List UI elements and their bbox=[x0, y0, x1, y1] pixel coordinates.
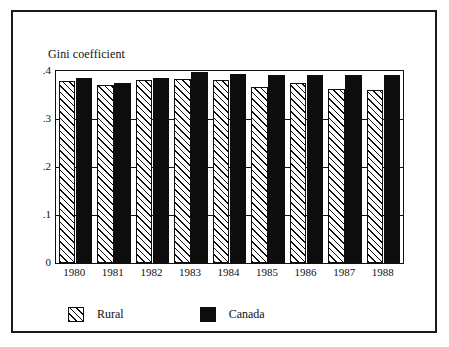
x-tick-label: 1986 bbox=[295, 266, 317, 278]
y-tick-label: 0 bbox=[25, 256, 51, 268]
bar-rural-1986 bbox=[290, 83, 307, 263]
bar-rural-1984 bbox=[213, 80, 230, 263]
bar-series-container bbox=[56, 71, 403, 263]
bar-group bbox=[97, 71, 131, 263]
y-tick-label: .3 bbox=[25, 112, 51, 124]
bar-canada-1982 bbox=[153, 78, 170, 263]
bar-canada-1980 bbox=[76, 78, 93, 263]
legend-entry-canada: Canada bbox=[200, 307, 265, 322]
x-tick-label: 1981 bbox=[102, 266, 124, 278]
bar-group bbox=[290, 71, 324, 263]
x-tick-label: 1983 bbox=[179, 266, 201, 278]
bar-canada-1988 bbox=[384, 75, 401, 263]
bar-group bbox=[251, 71, 285, 263]
plot-area bbox=[55, 70, 404, 264]
y-tick-label: .2 bbox=[25, 160, 51, 172]
legend-entry-rural: Rural bbox=[68, 307, 124, 322]
bar-canada-1984 bbox=[230, 74, 247, 263]
legend-swatch-rural-icon bbox=[68, 307, 84, 322]
y-tick-label: .4 bbox=[25, 64, 51, 76]
chart-legend: RuralCanada bbox=[68, 307, 265, 322]
bar-rural-1980 bbox=[59, 81, 76, 263]
bar-rural-1981 bbox=[97, 85, 114, 263]
bar-canada-1986 bbox=[307, 75, 324, 263]
bar-group bbox=[174, 71, 208, 263]
x-tick-label: 1985 bbox=[256, 266, 278, 278]
legend-label: Canada bbox=[229, 307, 265, 322]
x-tick-label: 1984 bbox=[218, 266, 240, 278]
bar-canada-1985 bbox=[268, 75, 285, 263]
bar-rural-1982 bbox=[136, 80, 153, 263]
figure-panel: Gini coefficient 0.1.2.3.4 1980198119821… bbox=[11, 10, 437, 333]
bar-rural-1985 bbox=[251, 87, 268, 263]
bar-group bbox=[136, 71, 170, 263]
bar-canada-1987 bbox=[345, 75, 362, 263]
y-axis-tick-labels: 0.1.2.3.4 bbox=[21, 70, 51, 262]
bar-canada-1981 bbox=[114, 83, 131, 263]
legend-label: Rural bbox=[97, 307, 124, 322]
y-tick-label: .1 bbox=[25, 208, 51, 220]
bar-group bbox=[213, 71, 247, 263]
x-tick-label: 1987 bbox=[333, 266, 355, 278]
bar-group bbox=[59, 71, 93, 263]
bar-canada-1983 bbox=[191, 72, 208, 263]
y-axis-title: Gini coefficient bbox=[48, 47, 125, 62]
bar-group bbox=[328, 71, 362, 263]
x-tick-label: 1980 bbox=[63, 266, 85, 278]
x-tick-label: 1988 bbox=[372, 266, 394, 278]
bar-rural-1983 bbox=[174, 79, 191, 263]
x-tick-label: 1982 bbox=[140, 266, 162, 278]
legend-swatch-canada-icon bbox=[200, 307, 216, 322]
bar-group bbox=[367, 71, 401, 263]
x-axis-tick-labels: 198019811982198319841985198619871988 bbox=[55, 266, 404, 284]
bar-rural-1988 bbox=[367, 90, 384, 263]
bar-rural-1987 bbox=[328, 89, 345, 263]
